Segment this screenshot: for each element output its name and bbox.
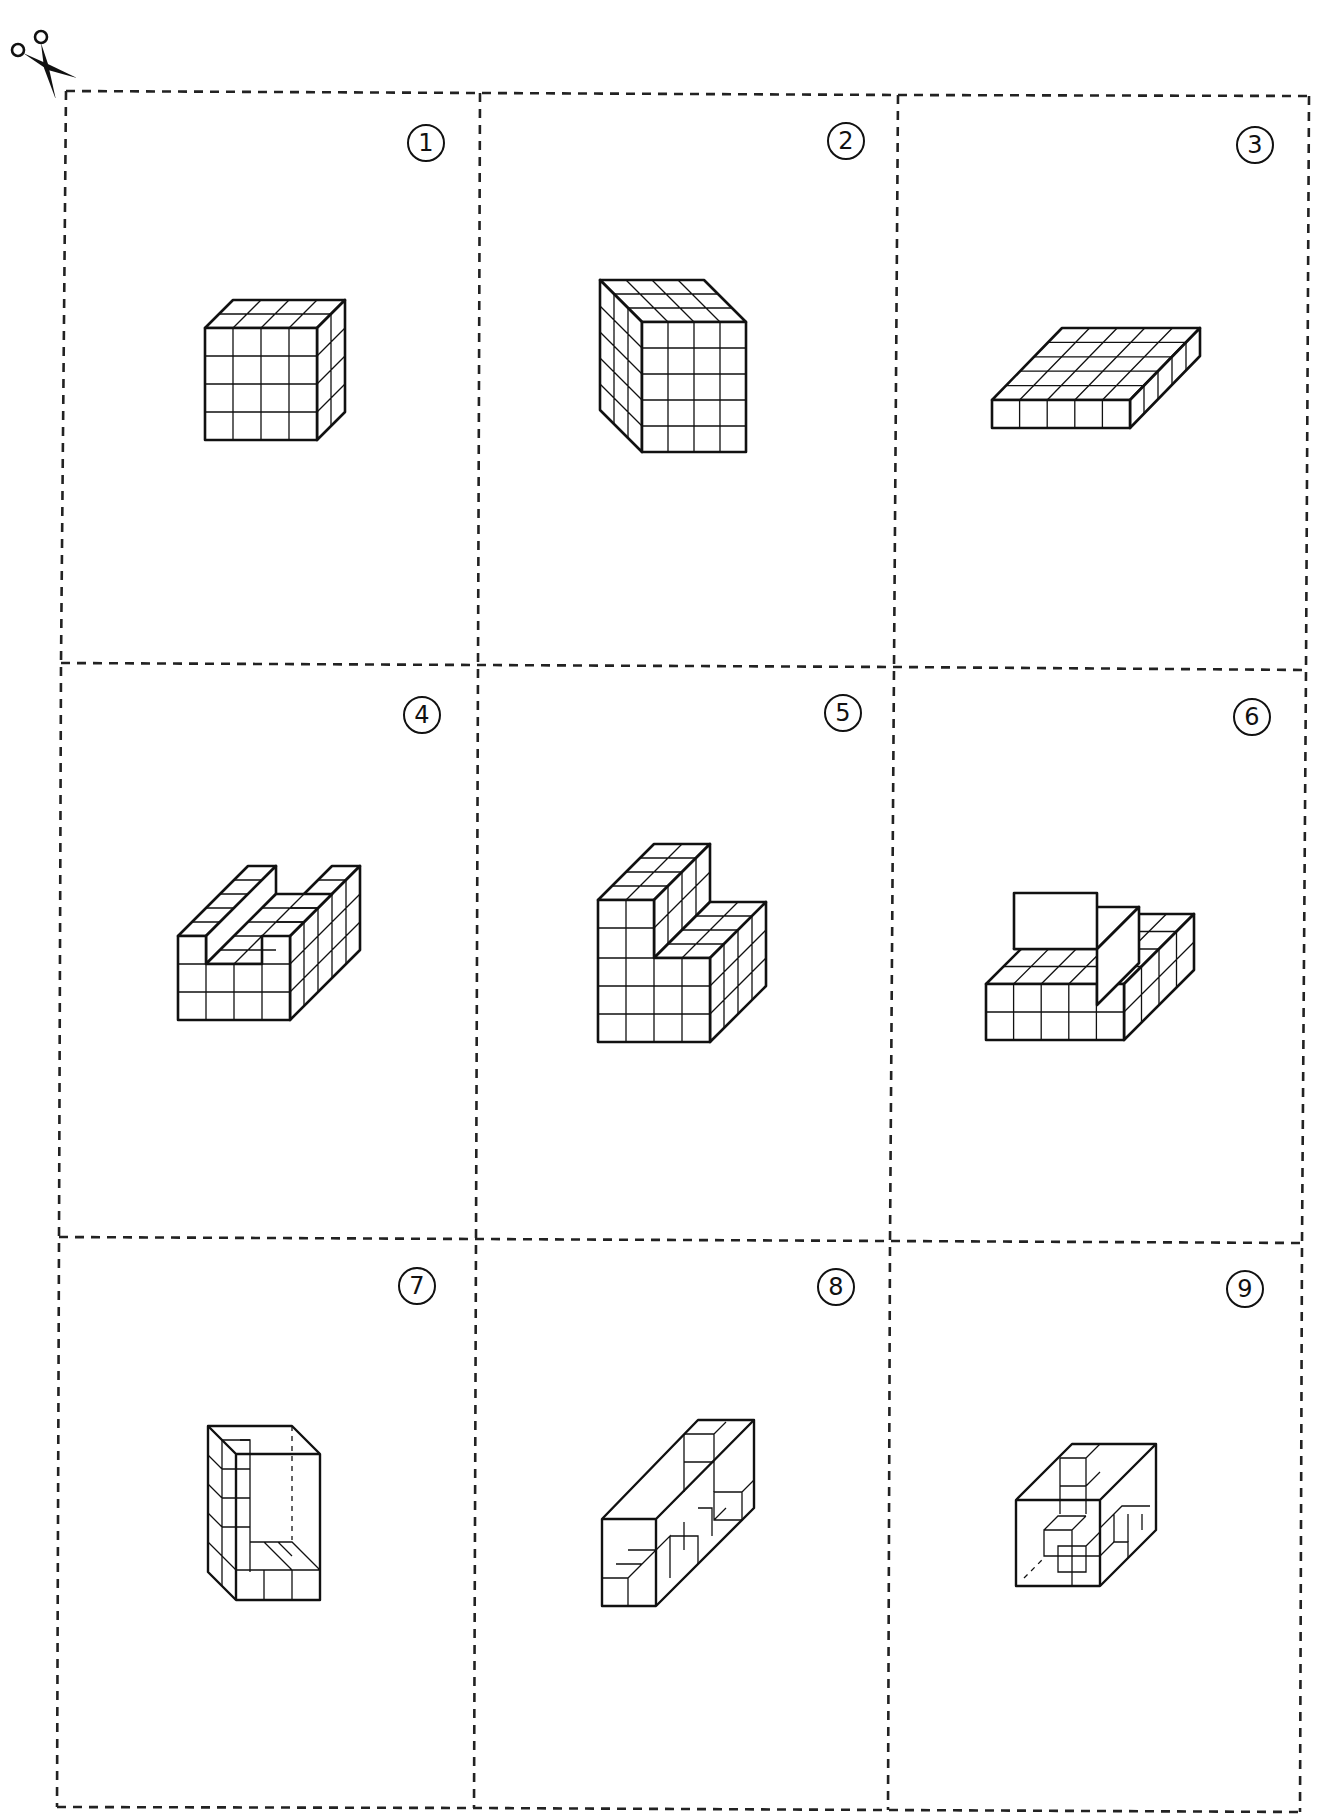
card-number-badge: 9	[1226, 1270, 1264, 1308]
figure-slab-5x1x5	[990, 310, 1230, 440]
card-number-badge: 5	[824, 694, 862, 732]
figure-cuboid-4x5x3	[598, 270, 778, 490]
card-number-badge: 8	[817, 1268, 855, 1306]
card-number-badge: 4	[403, 696, 441, 734]
card-number-badge: 6	[1233, 698, 1271, 736]
figure-two-tier	[980, 840, 1220, 1060]
card-number-badge: 3	[1236, 126, 1274, 164]
figure-l-step	[590, 830, 780, 1060]
card-number-badge: 1	[407, 124, 445, 162]
card-number-badge: 7	[398, 1267, 436, 1305]
figure-open-box-9	[1010, 1430, 1210, 1610]
figure-open-box-8	[590, 1400, 790, 1630]
card-number-badge: 2	[827, 122, 865, 160]
figure-u-shape	[170, 850, 370, 1040]
figure-open-box-7	[180, 1400, 360, 1630]
figure-cuboid-4x4x2	[195, 290, 365, 460]
